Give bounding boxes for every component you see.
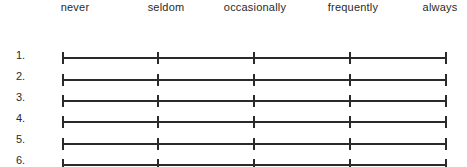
tick-always[interactable] <box>445 159 447 167</box>
tick-seldom[interactable] <box>157 159 159 167</box>
item-number: 6. <box>16 154 25 166</box>
label-frequently: frequently <box>328 1 378 13</box>
tick-always[interactable] <box>445 74 447 86</box>
rating-scale-6[interactable] <box>62 159 447 167</box>
rating-scale-4[interactable] <box>62 116 447 127</box>
tick-always[interactable] <box>445 95 447 107</box>
tick-never[interactable] <box>62 138 64 150</box>
tick-seldom[interactable] <box>157 116 159 128</box>
item-number: 4. <box>16 112 25 124</box>
tick-occasionally[interactable] <box>253 138 255 150</box>
tick-never[interactable] <box>62 74 64 86</box>
item-number: 2. <box>16 70 25 82</box>
tick-always[interactable] <box>445 138 447 150</box>
tick-always[interactable] <box>445 116 447 128</box>
item-number: 5. <box>16 133 25 145</box>
tick-frequently[interactable] <box>349 159 351 167</box>
tick-frequently[interactable] <box>349 116 351 128</box>
label-always: always <box>423 1 458 13</box>
rating-scale-5[interactable] <box>62 138 447 149</box>
tick-never[interactable] <box>62 95 64 107</box>
label-seldom: seldom <box>148 1 185 13</box>
item-number: 3. <box>16 91 25 103</box>
tick-occasionally[interactable] <box>253 116 255 128</box>
tick-seldom[interactable] <box>157 74 159 86</box>
tick-occasionally[interactable] <box>253 74 255 86</box>
label-never: never <box>61 1 90 13</box>
tick-always[interactable] <box>445 52 447 64</box>
rating-scale-3[interactable] <box>62 95 447 106</box>
label-occasionally: occasionally <box>224 1 286 13</box>
tick-frequently[interactable] <box>349 138 351 150</box>
tick-occasionally[interactable] <box>253 52 255 64</box>
tick-never[interactable] <box>62 116 64 128</box>
tick-frequently[interactable] <box>349 74 351 86</box>
tick-frequently[interactable] <box>349 95 351 107</box>
tick-seldom[interactable] <box>157 95 159 107</box>
rating-scale-2[interactable] <box>62 74 447 85</box>
tick-frequently[interactable] <box>349 52 351 64</box>
tick-seldom[interactable] <box>157 138 159 150</box>
tick-seldom[interactable] <box>157 52 159 64</box>
rating-scale-1[interactable] <box>62 52 447 63</box>
tick-never[interactable] <box>62 159 64 167</box>
item-number: 1. <box>16 49 25 61</box>
tick-occasionally[interactable] <box>253 95 255 107</box>
tick-occasionally[interactable] <box>253 159 255 167</box>
tick-never[interactable] <box>62 52 64 64</box>
